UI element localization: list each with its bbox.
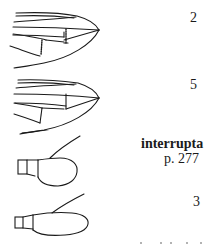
couplet-number-3: 3 [193, 195, 200, 209]
page-reference: p. 277 [164, 152, 199, 166]
figure-club-oval [0, 130, 100, 194]
figure-club-elongate [0, 190, 100, 246]
species-name: interrupta [141, 137, 203, 151]
couplet-number-2: 2 [190, 11, 197, 25]
leader-dots [130, 242, 204, 245]
couplet-number-5: 5 [190, 78, 197, 92]
figure-wing-apex-dotted [0, 0, 110, 72]
